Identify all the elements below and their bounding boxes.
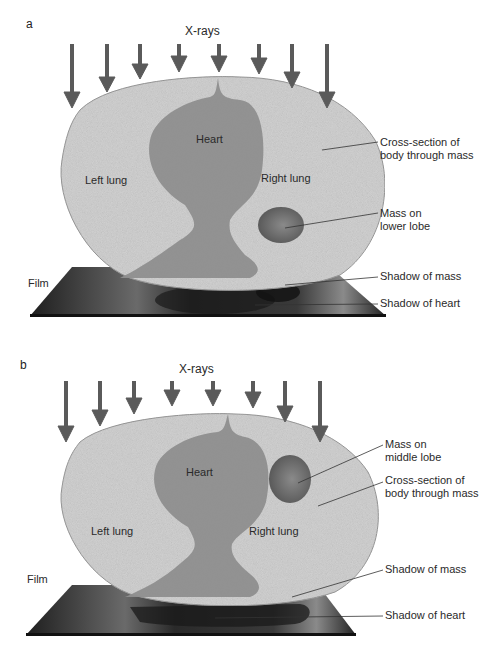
panel-letter: b [20,358,27,372]
label-heart: Heart [186,466,213,479]
callout-cross-section: Cross-section of body through mass [385,474,479,500]
label-right-lung: Right lung [249,525,299,538]
shadow-of-heart-shape [130,604,310,627]
label-heart: Heart [196,133,223,146]
callout-mass: Mass on middle lobe [385,438,441,464]
callout-cross-section: Cross-section of body through mass [380,136,474,162]
callout-shadow-heart: Shadow of heart [385,609,465,622]
xrays-title: X-rays [185,25,220,38]
panel-b: b X-rays Heart Left lung Right lung Film… [0,322,497,645]
callout-shadow-heart: Shadow of heart [380,297,460,310]
panel-a: a X-rays Heart Left lung Right lung Film… [0,0,497,322]
label-left-lung: Left lung [91,525,133,538]
label-left-lung: Left lung [85,174,127,187]
callout-shadow-mass: Shadow of mass [385,563,466,576]
callout-mass: Mass on lower lobe [380,207,430,233]
panel-letter: a [26,17,33,31]
label-film: Film [27,573,48,586]
callout-shadow-mass: Shadow of mass [380,270,461,283]
mass-lower-lobe [258,207,304,243]
label-film: Film [28,277,49,290]
xrays-title: X-rays [179,363,214,376]
label-right-lung: Right lung [261,172,311,185]
mass-middle-lobe [269,455,311,503]
